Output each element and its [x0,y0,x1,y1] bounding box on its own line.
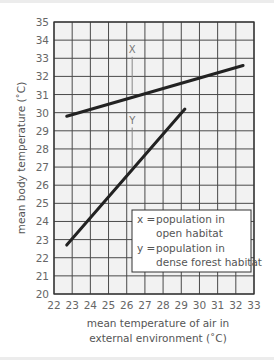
legend-line2: open habitat [156,227,223,239]
x-tick-label: 25 [102,299,115,311]
y-tick-label: 23 [36,234,49,246]
y-tick-label: 32 [36,70,49,82]
y-tick-label: 35 [36,16,49,28]
x-tick-label: 24 [84,299,98,311]
y-tick-label: 34 [36,34,50,46]
y-axis-label: mean body temperature (˚C) [15,82,27,235]
x-tick-label: 29 [175,299,188,311]
legend-line1: population in [156,213,225,225]
legend-key: y = [137,242,155,254]
x-tick-label: 27 [138,299,151,311]
y-tick-label: 22 [36,252,49,264]
y-tick-label: 29 [36,125,49,137]
x-tick-label: 31 [211,299,224,311]
y-tick-label: 24 [36,215,50,227]
x-axis-label-line1: mean temperature of air in [87,317,230,329]
y-tick-label: 31 [36,89,49,101]
x-axis-ticks: 222324252627282930313233 [47,299,260,311]
legend-line1: population in [156,242,225,254]
y-tick-label: 30 [36,107,49,119]
chart: 20212223242526272829303132333435 2223242… [0,0,274,360]
y-tick-label: 28 [36,143,49,155]
legend-key: x = [137,213,155,225]
y-tick-label: 21 [36,270,49,282]
x-tick-label: 33 [247,299,260,311]
y-axis-ticks: 20212223242526272829303132333435 [36,16,50,300]
series-label-y: Y [128,115,136,126]
y-tick-label: 26 [36,179,50,191]
x-tick-label: 23 [65,299,78,311]
series-label-x: X [129,44,136,55]
x-tick-label: 26 [120,299,134,311]
legend: x =population inopen habitaty =populatio… [132,210,262,272]
x-tick-label: 30 [193,299,206,311]
y-tick-label: 33 [36,52,49,64]
x-tick-label: 32 [229,299,242,311]
x-tick-label: 28 [156,299,169,311]
legend-line2: dense forest habitat [156,256,262,268]
x-tick-label: 22 [47,299,60,311]
y-tick-label: 27 [36,161,49,173]
x-axis-label-line2: external environment (˚C) [89,332,227,344]
y-tick-label: 25 [36,197,49,209]
